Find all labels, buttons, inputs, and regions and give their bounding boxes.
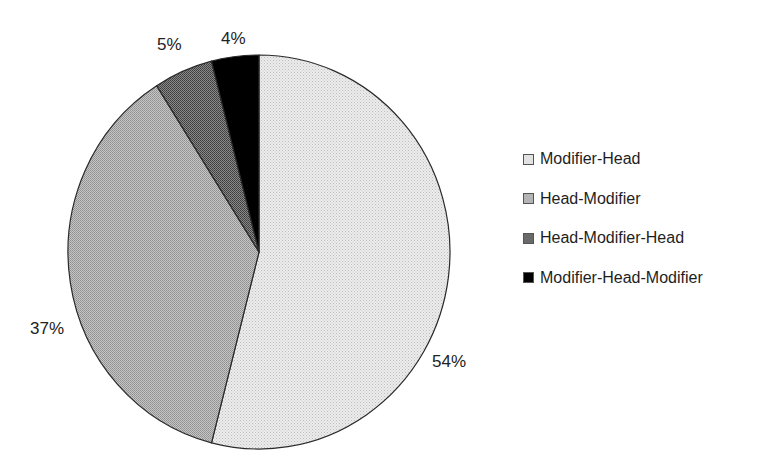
legend-label: Head-Modifier-Head [540, 229, 684, 247]
legend-swatch-black-icon [523, 272, 534, 283]
legend-swatch-light-icon [523, 154, 534, 165]
pie-slices [68, 55, 450, 449]
legend-label: Modifier-Head [540, 150, 640, 168]
slice-label-head-modifier-head: 5% [157, 36, 182, 53]
legend-label: Head-Modifier [540, 190, 640, 208]
legend-swatch-medium-icon [523, 193, 534, 204]
slice-label-modifier-head: 54% [432, 353, 466, 370]
legend-item-head-modifier-head: Head-Modifier-Head [523, 228, 703, 248]
legend-item-modifier-head-modifier: Modifier-Head-Modifier [523, 268, 703, 288]
slice-label-modifier-head-modifier: 4% [221, 30, 246, 47]
slice-label-head-modifier: 37% [30, 320, 64, 337]
legend-item-modifier-head: Modifier-Head [523, 149, 703, 169]
legend-swatch-dark-icon [523, 233, 534, 244]
chart-legend: Modifier-Head Head-Modifier Head-Modifie… [523, 149, 703, 307]
legend-label: Modifier-Head-Modifier [540, 269, 703, 287]
legend-item-head-modifier: Head-Modifier [523, 189, 703, 209]
